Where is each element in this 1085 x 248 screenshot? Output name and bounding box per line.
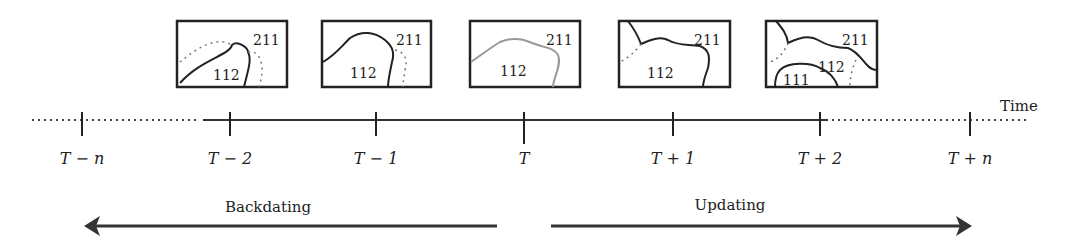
region-label-211: 211 xyxy=(396,32,423,48)
region-label-211: 211 xyxy=(842,32,869,48)
map-t-minus-1: 211 112 xyxy=(322,21,431,87)
map-t-minus-2: 211 112 xyxy=(177,21,287,87)
updating-arrow: Updating xyxy=(551,196,972,236)
tick-label-t: T xyxy=(519,149,531,168)
tick-labels: T − n T − 2 T − 1 T T + 1 T + 2 T + n xyxy=(60,149,993,168)
tick-label-t-plus-2: T + 2 xyxy=(798,149,842,168)
updating-label: Updating xyxy=(695,196,766,214)
region-label-112: 112 xyxy=(350,65,377,81)
tick-label-t-plus-1: T + 1 xyxy=(651,149,695,168)
tick-label-t-minus-n: T − n xyxy=(60,149,105,168)
region-label-211: 211 xyxy=(253,32,280,48)
region-label-111: 111 xyxy=(783,72,810,88)
map-t: 211 112 xyxy=(470,21,580,87)
time-axis-label: Time xyxy=(1000,97,1038,115)
region-label-211: 211 xyxy=(546,32,573,48)
time-axis: Time xyxy=(32,97,1038,144)
backdating-label: Backdating xyxy=(225,198,311,216)
region-label-112: 112 xyxy=(500,63,527,79)
region-label-112: 112 xyxy=(213,67,240,83)
region-label-112: 112 xyxy=(818,59,845,75)
tick-label-t-minus-1: T − 1 xyxy=(354,149,398,168)
region-label-211: 211 xyxy=(694,32,721,48)
tick-label-t-plus-n: T + n xyxy=(948,149,993,168)
tick-label-t-minus-2: T − 2 xyxy=(208,149,252,168)
map-t-plus-1: 211 112 xyxy=(619,21,730,87)
timeline-diagram: 211 112 211 112 211 112 211 112 211 112 … xyxy=(0,0,1085,248)
region-label-112: 112 xyxy=(647,65,674,81)
map-t-plus-2: 211 112 111 xyxy=(766,21,877,88)
backdating-arrow: Backdating xyxy=(84,198,497,236)
